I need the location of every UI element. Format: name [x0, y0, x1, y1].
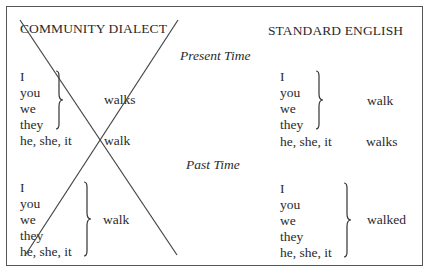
cross-out-x-icon — [0, 0, 433, 275]
